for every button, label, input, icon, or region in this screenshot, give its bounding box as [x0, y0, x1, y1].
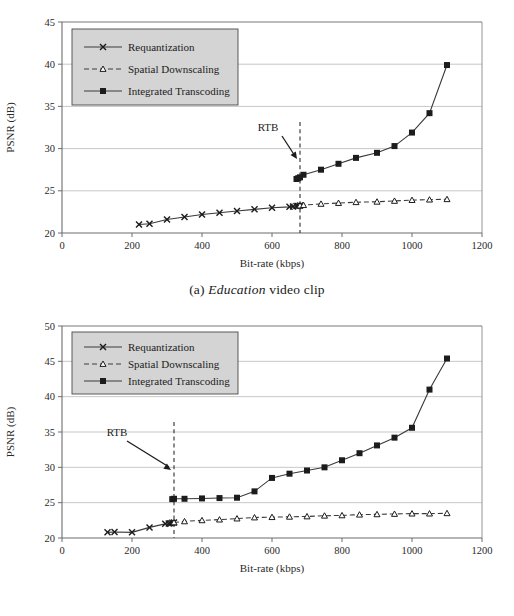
data-point-marker-plus — [182, 496, 188, 502]
rtb-arrow-line — [127, 441, 169, 467]
series-integrated-transcoding — [294, 62, 451, 182]
data-point-marker-plus — [392, 435, 398, 441]
chart-panel-a: 202530354045020040060080010001200Bit-rat… — [0, 0, 514, 310]
caption-a: (a) Education video clip — [0, 282, 514, 298]
x-tick-label: 600 — [264, 545, 280, 556]
x-tick-label: 1200 — [472, 240, 493, 251]
data-point-marker-plus — [318, 167, 324, 173]
x-tick-label: 200 — [124, 240, 140, 251]
rtb-arrow-head — [290, 151, 297, 159]
data-point-marker-plus — [234, 495, 240, 501]
legend: RequantizationSpatial DownscalingIntegra… — [72, 29, 238, 105]
x-axis-title: Bit-rate (kbps) — [240, 257, 305, 270]
data-point-marker-plus — [444, 62, 450, 68]
series-line — [139, 206, 300, 225]
series-line — [108, 522, 175, 532]
data-point-marker-plus — [409, 130, 415, 136]
legend: RequantizationSpatial DownscalingIntegra… — [72, 332, 238, 394]
series-line — [297, 65, 448, 179]
data-point-marker-plus — [353, 155, 359, 161]
rtb-label: RTB — [258, 121, 279, 133]
y-tick-label: 30 — [45, 143, 56, 154]
y-tick-label: 40 — [45, 391, 56, 402]
data-point-marker-triangle — [444, 510, 450, 515]
data-point-marker-plus — [322, 464, 328, 470]
data-point-marker-plus — [252, 488, 258, 494]
series-line — [174, 513, 447, 522]
data-point-marker-plus — [100, 88, 106, 94]
data-point-marker-plus — [374, 442, 380, 448]
y-tick-label: 25 — [45, 497, 56, 508]
series-spatial-downscaling — [171, 510, 450, 525]
data-point-marker-plus — [427, 387, 433, 393]
y-tick-label: 20 — [45, 533, 56, 544]
annotation-rtb: RTB — [107, 422, 174, 538]
data-point-marker-plus — [392, 143, 398, 149]
y-tick-label: 50 — [45, 321, 56, 332]
chart-panel-b: 20253035404550020040060080010001200Bit-r… — [0, 310, 514, 616]
rtb-label: RTB — [107, 426, 128, 438]
y-axis-title: PSNR (dB) — [4, 102, 17, 153]
y-tick-label: 45 — [45, 356, 56, 367]
series-requantization — [136, 203, 303, 228]
data-point-marker-plus — [287, 471, 293, 477]
y-tick-label: 30 — [45, 462, 56, 473]
data-point-marker-plus — [444, 356, 450, 362]
x-tick-label: 400 — [194, 240, 210, 251]
y-tick-label: 35 — [45, 101, 56, 112]
data-point-marker-plus — [427, 110, 433, 116]
data-point-marker-plus — [269, 475, 275, 481]
data-point-marker-plus — [357, 450, 363, 456]
x-tick-label: 200 — [124, 545, 140, 556]
x-tick-label: 800 — [334, 240, 350, 251]
data-point-marker-plus — [409, 425, 415, 431]
data-point-marker-plus — [100, 378, 106, 384]
legend-item-label: Integrated Transcoding — [128, 375, 230, 387]
legend-item-label: Spatial Downscaling — [128, 358, 220, 370]
x-tick-label: 1000 — [402, 545, 423, 556]
chart-b-plot: 20253035404550020040060080010001200Bit-r… — [0, 310, 514, 590]
x-tick-label: 0 — [59, 545, 64, 556]
series-spatial-downscaling — [297, 196, 450, 208]
legend-item-label: Requantization — [128, 41, 195, 53]
x-tick-label: 1200 — [472, 545, 493, 556]
x-axis-title: Bit-rate (kbps) — [240, 562, 305, 575]
series-requantization — [105, 519, 178, 535]
data-point-marker-plus — [336, 161, 342, 167]
data-point-marker-plus — [199, 495, 205, 501]
y-tick-label: 35 — [45, 427, 56, 438]
x-tick-label: 0 — [59, 240, 64, 251]
caption-a-clip-name: Education — [208, 282, 265, 297]
data-point-marker-plus — [374, 150, 380, 156]
data-point-marker-plus — [301, 172, 307, 178]
rtb-arrow-line — [282, 136, 295, 156]
chart-a-plot: 202530354045020040060080010001200Bit-rat… — [0, 0, 514, 285]
legend-item-label: Requantization — [128, 341, 195, 353]
data-point-marker-plus — [171, 496, 177, 502]
y-axis-title: PSNR (dB) — [4, 406, 17, 457]
y-tick-label: 45 — [45, 17, 56, 28]
x-tick-label: 800 — [334, 545, 350, 556]
x-tick-label: 600 — [264, 240, 280, 251]
caption-a-suffix: video clip — [269, 282, 325, 297]
legend-item-label: Spatial Downscaling — [128, 63, 220, 75]
x-tick-label: 400 — [194, 545, 210, 556]
legend-item-label: Integrated Transcoding — [128, 85, 230, 97]
y-tick-label: 40 — [45, 59, 56, 70]
y-tick-label: 25 — [45, 185, 56, 196]
caption-a-prefix: (a) — [189, 282, 205, 297]
figure-psnr-vs-bitrate: 202530354045020040060080010001200Bit-rat… — [0, 0, 514, 616]
data-point-marker-plus — [217, 495, 223, 501]
data-point-marker-plus — [339, 457, 345, 463]
x-tick-label: 1000 — [402, 240, 423, 251]
data-point-marker-plus — [304, 468, 310, 474]
y-tick-label: 20 — [45, 228, 56, 239]
